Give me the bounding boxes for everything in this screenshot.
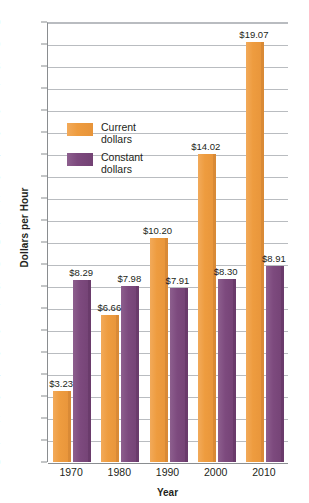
bar-shadow-edge — [116, 315, 119, 462]
legend-label-current-line1: Current — [101, 121, 136, 133]
x-tick-label: 2010 — [252, 466, 275, 478]
y-tick-mark — [41, 440, 47, 441]
bar-value-label: $7.91 — [166, 275, 190, 286]
bar-value-label: $8.30 — [214, 266, 238, 277]
x-tick-label: 1990 — [156, 466, 179, 478]
x-tick-label: 1980 — [108, 466, 131, 478]
y-tick-mark — [41, 220, 47, 221]
bar-shadow-edge — [88, 280, 91, 462]
bar-value-label: $14.02 — [191, 141, 220, 152]
legend-label-current-line2: dollars — [101, 133, 132, 145]
plot-area — [47, 22, 288, 462]
bar-shadow-edge — [136, 286, 139, 462]
x-tick-label: 1970 — [59, 466, 82, 478]
bar-shadow-edge — [185, 288, 188, 462]
legend-label-constant-line2: dollars — [101, 163, 132, 175]
bar-value-label: $7.98 — [117, 273, 141, 284]
y-tick-mark — [41, 308, 47, 309]
bar-current-1980 — [101, 315, 119, 462]
gridline — [48, 23, 288, 24]
chart-legend: Current dollars Constant dollars — [67, 122, 163, 182]
x-tick-label: 2000 — [204, 466, 227, 478]
y-tick-mark — [41, 110, 47, 111]
bar-shadow-edge — [68, 391, 71, 462]
legend-label-constant: Constant dollars — [101, 152, 143, 175]
y-tick-mark — [41, 330, 47, 331]
x-axis-title: Year — [47, 487, 288, 498]
bar-value-label: $6.66 — [97, 302, 121, 313]
y-axis-title: Dollars per Hour — [19, 163, 30, 293]
y-tick-mark — [41, 286, 47, 287]
bar-shadow-edge — [281, 266, 284, 462]
y-tick-mark — [41, 396, 47, 397]
y-tick-mark — [41, 264, 47, 265]
y-tick-mark — [41, 352, 47, 353]
legend-label-current: Current dollars — [101, 122, 136, 145]
bar-shadow-edge — [233, 279, 236, 462]
plot-inner — [48, 23, 288, 462]
y-tick-mark — [41, 374, 47, 375]
bar-constant-1990 — [170, 288, 188, 462]
bar-constant-2010 — [266, 266, 284, 462]
bar-value-label: $8.91 — [262, 253, 286, 264]
bar-shadow-edge — [213, 154, 216, 462]
legend-swatch-current-icon — [67, 123, 93, 136]
legend-item-constant: Constant dollars — [67, 152, 163, 175]
bar-value-label: $3.23 — [49, 378, 73, 389]
bar-constant-2000 — [218, 279, 236, 462]
legend-label-constant-line1: Constant — [101, 151, 143, 163]
gridline — [48, 463, 288, 464]
y-tick-mark — [41, 88, 47, 89]
bar-shadow-edge — [165, 238, 168, 462]
y-tick-mark — [41, 154, 47, 155]
y-tick-mark — [41, 462, 47, 463]
bar-current-1970 — [53, 391, 71, 462]
y-tick-mark — [41, 66, 47, 67]
bar-value-label: $19.07 — [239, 29, 268, 40]
bar-current-1990 — [150, 238, 168, 462]
y-tick-mark — [41, 198, 47, 199]
bar-constant-1970 — [73, 280, 91, 462]
legend-swatch-constant-icon — [67, 153, 93, 166]
bar-chart: Dollars per Hour Year Current dollars Co… — [0, 0, 309, 503]
bar-value-label: $10.20 — [143, 225, 172, 236]
y-tick-mark — [41, 176, 47, 177]
legend-item-current: Current dollars — [67, 122, 163, 145]
bar-constant-1980 — [121, 286, 139, 462]
y-tick-mark — [41, 132, 47, 133]
bar-current-2000 — [198, 154, 216, 462]
bar-value-label: $8.29 — [69, 267, 93, 278]
y-tick-mark — [41, 44, 47, 45]
y-tick-mark — [41, 22, 47, 23]
y-tick-mark — [41, 418, 47, 419]
y-tick-mark — [41, 242, 47, 243]
